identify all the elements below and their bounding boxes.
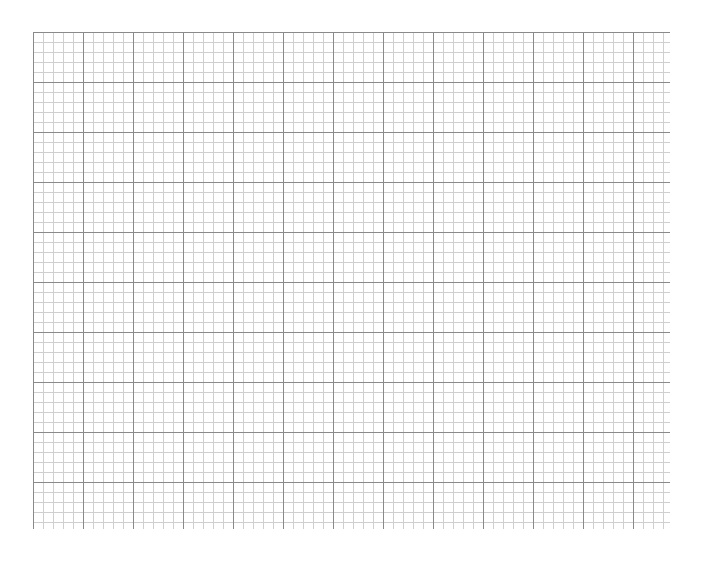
graph-paper-grid: [33, 32, 671, 530]
